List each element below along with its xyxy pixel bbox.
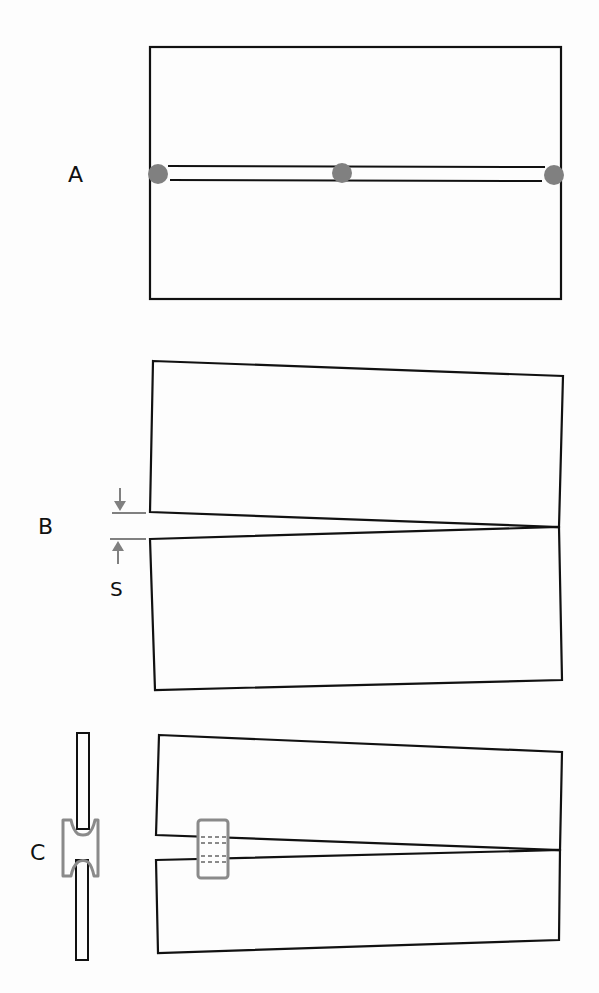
gap-label: S [110,577,123,601]
wedge-bottom-b [150,527,562,690]
panel-b: B S [38,361,563,690]
side-bar-top [77,733,89,829]
diagram-canvas: A B S C [0,0,599,993]
arrow-down-icon [114,501,126,511]
side-bar-bottom [76,860,88,960]
panel-c-label: C [30,840,45,865]
panel-b-label: B [38,514,53,539]
slot-line-bottom [170,180,542,181]
panel-a: A [68,47,564,299]
point-left [148,164,168,184]
arrow-up-icon [112,541,124,551]
face-clip [198,820,228,878]
panel-a-label: A [68,162,83,187]
point-center [332,163,352,183]
wedge-top-b [150,361,563,527]
point-right [544,165,564,185]
plate-a [150,47,561,299]
slot-line-top [168,166,545,167]
panel-c: C [30,733,562,960]
